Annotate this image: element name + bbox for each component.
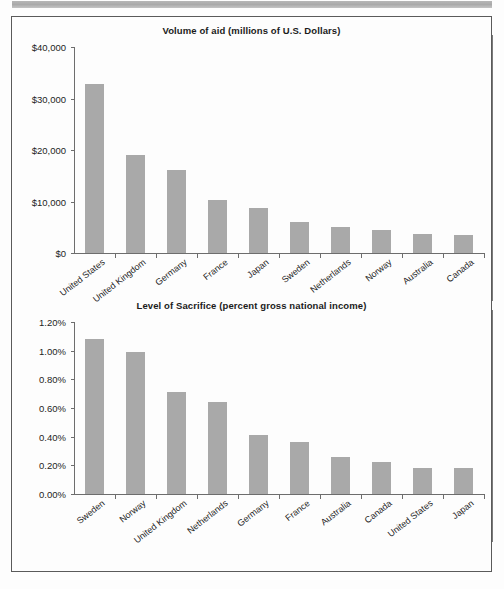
bar: [372, 230, 391, 253]
y-axis-tick: [71, 99, 75, 100]
bar: [249, 435, 268, 494]
x-axis-tick: [484, 495, 485, 499]
y-axis-tick-label: 1.00%: [12, 345, 66, 356]
bar: [249, 208, 268, 253]
x-axis-tick: [279, 495, 280, 499]
x-axis-tick: [402, 495, 403, 499]
bar: [208, 402, 227, 494]
y-axis-tick-label: $40,000: [12, 42, 66, 53]
y-axis-tick-label: 0.80%: [12, 374, 66, 385]
bar: [167, 170, 186, 253]
bar: [454, 235, 473, 253]
x-axis-tick: [484, 254, 485, 258]
x-axis-tick: [320, 254, 321, 258]
x-axis-category-label: France: [74, 498, 311, 589]
y-axis-tick-label: 0.60%: [12, 403, 66, 414]
y-axis-tick-label: $0: [12, 248, 66, 259]
y-axis-tick: [71, 47, 75, 48]
x-axis-tick: [156, 495, 157, 499]
bar: [85, 84, 104, 253]
y-axis-tick: [71, 379, 75, 380]
x-axis-tick: [443, 495, 444, 499]
y-axis-tick: [71, 437, 75, 438]
y-axis-tick-label: 1.20%: [12, 317, 66, 328]
chart-level-of-sacrifice: Level of Sacrifice (percent gross nation…: [12, 300, 491, 570]
plot-region-volume-of-aid: $0$10,000$20,000$30,000$40,000United Sta…: [12, 43, 493, 298]
chart-title-volume-of-aid: Volume of aid (millions of U.S. Dollars): [12, 25, 491, 36]
x-axis-tick: [320, 495, 321, 499]
bar: [454, 468, 473, 494]
x-axis-tick: [443, 254, 444, 258]
bar: [85, 339, 104, 494]
y-axis-tick-label: $10,000: [12, 196, 66, 207]
y-axis-tick-label: $30,000: [12, 93, 66, 104]
y-axis-tick-label: $20,000: [12, 145, 66, 156]
bar: [413, 468, 432, 494]
x-axis-tick: [279, 254, 280, 258]
x-axis-category-label: Sweden: [31, 498, 107, 560]
x-axis-tick: [156, 254, 157, 258]
y-axis-tick: [71, 494, 75, 495]
chart-volume-of-aid: Volume of aid (millions of U.S. Dollars)…: [12, 25, 491, 305]
y-axis-tick-label: 0.40%: [12, 431, 66, 442]
y-axis-tick-label: 0.00%: [12, 489, 66, 500]
y-axis-tick: [71, 150, 75, 151]
y-axis-tick: [71, 322, 75, 323]
bar: [290, 442, 309, 494]
y-axis-tick-label: 0.20%: [12, 460, 66, 471]
x-axis-tick: [197, 495, 198, 499]
x-axis-tick: [115, 495, 116, 499]
bar: [208, 200, 227, 253]
bar: [331, 227, 350, 253]
chart-title-level-of-sacrifice: Level of Sacrifice (percent gross nation…: [12, 300, 491, 311]
y-axis-tick: [71, 465, 75, 466]
y-axis-tick: [71, 351, 75, 352]
y-axis-tick: [71, 202, 75, 203]
x-axis-tick: [197, 254, 198, 258]
bar: [331, 457, 350, 494]
plot-right-rule: [492, 35, 493, 301]
y-axis-tick: [71, 408, 75, 409]
x-axis-tick: [115, 254, 116, 258]
figure-frame: Volume of aid (millions of U.S. Dollars)…: [11, 16, 492, 572]
y-axis-tick: [71, 253, 75, 254]
x-axis-tick: [238, 254, 239, 258]
x-axis-tick: [238, 495, 239, 499]
bar: [290, 222, 309, 253]
x-axis-tick: [361, 495, 362, 499]
plot-region-level-of-sacrifice: 0.00%0.20%0.40%0.60%0.80%1.00%1.20%Swede…: [12, 318, 493, 566]
figure-page: Volume of aid (millions of U.S. Dollars)…: [0, 0, 504, 589]
top-decorative-bar: [12, 1, 492, 8]
bar: [167, 392, 186, 494]
x-axis-tick: [402, 254, 403, 258]
plot-right-rule: [492, 310, 493, 542]
bar: [372, 462, 391, 494]
bar: [413, 234, 432, 253]
bar: [126, 352, 145, 494]
x-axis-tick: [361, 254, 362, 258]
bar: [126, 155, 145, 253]
